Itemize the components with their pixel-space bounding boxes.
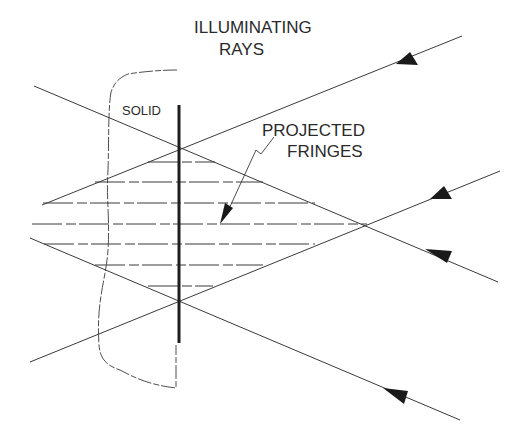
projected-fringes-label-line2: FRINGES [287, 142, 363, 161]
fringes-leader [220, 137, 274, 224]
arrowhead-icon [383, 388, 408, 404]
illuminating-rays-label-line1: ILLUMINATING [194, 18, 312, 37]
illuminating-rays [30, 36, 500, 420]
ray-3 [30, 171, 500, 362]
leader-line [228, 137, 274, 211]
projected-fringes [32, 162, 367, 286]
projected-fringes-label-line1: PROJECTED [262, 121, 365, 140]
arrowhead-icon [396, 52, 418, 65]
arrowhead-icon [430, 186, 452, 199]
ray-2 [42, 36, 462, 205]
fringe-projection-diagram: ILLUMINATING RAYS SOLID PROJECTED FRINGE… [0, 0, 524, 443]
illuminating-rays-label-line2: RAYS [219, 40, 264, 59]
ray-arrowheads [383, 52, 452, 404]
leader-arrowhead-icon [220, 203, 233, 224]
solid-label: SOLID [122, 103, 161, 118]
